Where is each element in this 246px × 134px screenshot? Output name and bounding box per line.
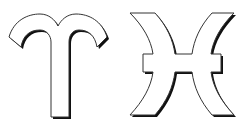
aries-glyph [0, 0, 123, 134]
aries-symbol-icon: Aries [0, 0, 123, 134]
pisces-glyph [123, 0, 246, 134]
pisces-symbol-icon: Pisces [123, 0, 246, 134]
